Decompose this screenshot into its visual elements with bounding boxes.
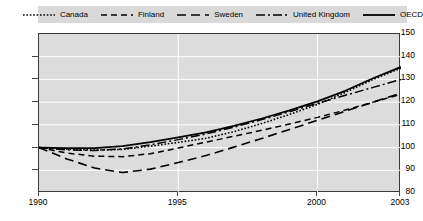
x-axis-tick-mark — [399, 192, 400, 196]
legend-label: OECD — [400, 11, 423, 19]
x-axis-tick-mark — [316, 192, 317, 196]
y-axis-tick-mark — [32, 169, 38, 170]
y-axis-tick-label: 100 — [389, 142, 415, 151]
x-axis-tick-mark — [38, 192, 39, 196]
x-axis-tick-mark — [177, 192, 178, 196]
y-axis-tick-label: 80 — [389, 187, 415, 196]
legend-label: United Kingdom — [293, 11, 350, 19]
plot-area — [38, 33, 400, 192]
legend-swatch-finland-icon — [100, 11, 134, 19]
legend-item-united-kingdom[interactable]: United Kingdom — [255, 11, 350, 19]
x-axis-tick-label: 1990 — [18, 198, 58, 207]
y-axis-tick-mark — [32, 101, 38, 102]
legend-label: Finland — [138, 11, 164, 19]
chart-legend: CanadaFinlandSwedenUnited KingdomOECD — [38, 6, 407, 23]
y-axis-tick-label: 150 — [389, 28, 415, 37]
y-axis-tick-label: 130 — [389, 73, 415, 82]
series-line-sweden — [39, 93, 401, 173]
y-axis-tick-label: 120 — [389, 96, 415, 105]
legend-item-oecd[interactable]: OECD — [362, 11, 423, 19]
legend-item-finland[interactable]: Finland — [100, 11, 164, 19]
x-axis-tick-label: 1995 — [157, 198, 197, 207]
plot-svg — [39, 34, 401, 193]
x-axis-tick-label: 2000 — [296, 198, 336, 207]
legend-swatch-canada-icon — [22, 11, 56, 19]
legend-item-canada[interactable]: Canada — [22, 11, 88, 19]
y-axis-tick-label: 110 — [389, 119, 415, 128]
legend-item-sweden[interactable]: Sweden — [176, 11, 243, 19]
x-axis-tick-label: 2003 — [380, 198, 420, 207]
legend-label: Canada — [60, 11, 88, 19]
y-axis-tick-mark — [32, 147, 38, 148]
legend-label: Sweden — [214, 11, 243, 19]
y-axis-tick-mark — [32, 78, 38, 79]
y-axis-tick-mark — [32, 124, 38, 125]
y-axis-tick-label: 140 — [389, 51, 415, 60]
legend-swatch-united-kingdom-icon — [255, 11, 289, 19]
y-axis-tick-mark — [32, 56, 38, 57]
legend-swatch-sweden-icon — [176, 11, 210, 19]
y-axis-tick-label: 90 — [389, 164, 415, 173]
legend-swatch-oecd-icon — [362, 11, 396, 19]
